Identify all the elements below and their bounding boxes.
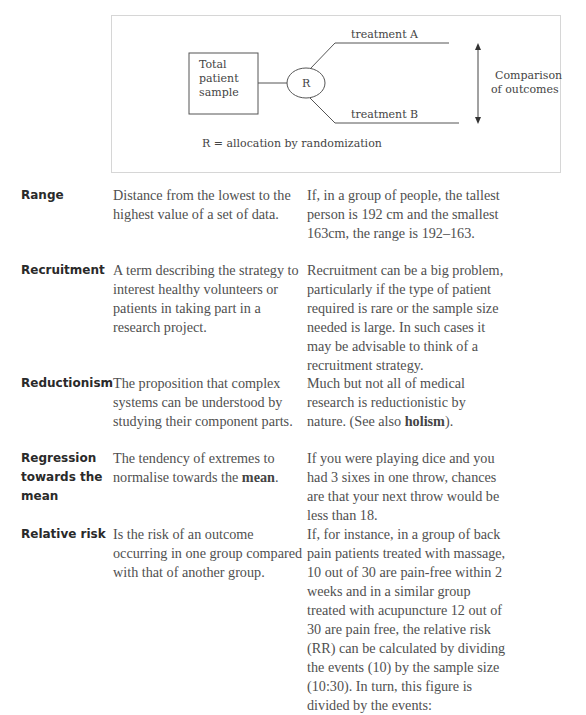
example: If, for instance, in a group of back pai… <box>307 525 507 715</box>
term-text: Relative risk <box>21 527 106 541</box>
term-text: Recruitment <box>21 263 105 277</box>
definition: Distance from the lowest to the highest … <box>113 186 303 224</box>
example: If, in a group of people, the tallest pe… <box>307 186 507 243</box>
term-text: Range <box>21 188 64 202</box>
definition-text-end: . <box>275 469 279 485</box>
cross-reference-mean[interactable]: mean <box>242 469 275 485</box>
figure-caption: R = allocation by randomization <box>202 137 382 150</box>
term: Recruitment <box>21 261 109 280</box>
branch-a-line <box>310 43 449 69</box>
term: Relative risk <box>21 525 109 544</box>
node-label: R <box>302 77 311 90</box>
example: Recruitment can be a big problem, partic… <box>307 261 507 375</box>
definition: A term describing the strategy to intere… <box>113 261 303 337</box>
box-label-line-1: Total <box>199 58 227 71</box>
cross-reference-holism[interactable]: holism <box>405 413 445 429</box>
example: Much but not all of medical research is … <box>307 374 507 431</box>
diagram-canvas: Total patient sample R treatment A treat… <box>1 1 586 201</box>
definition: The proposition that complex systems can… <box>113 374 303 431</box>
outcome-label-line-2: of outcomes <box>491 83 559 96</box>
randomization-diagram: Total patient sample R treatment A treat… <box>111 15 561 173</box>
branch-a-label: treatment A <box>351 28 419 41</box>
double-arrow-icon <box>475 43 481 124</box>
example-text-end: ). <box>445 413 453 429</box>
branch-b-label: treatment B <box>351 108 418 121</box>
term-line-2: towards the <box>21 468 109 487</box>
example: If you were playing dice and you had 3 s… <box>307 449 507 525</box>
term-line-1: Regression <box>21 449 109 468</box>
outcome-label-line-1: Comparison <box>495 69 562 82</box>
box-label-line-2: patient <box>199 72 239 85</box>
term-text: Reductionism <box>21 376 113 390</box>
term: Regression towards the mean <box>21 449 109 506</box>
box-label-line-3: sample <box>199 86 239 99</box>
definition: Is the risk of an outcome occurring in o… <box>113 525 303 582</box>
term: Range <box>21 186 109 205</box>
term: Reductionism <box>21 374 109 393</box>
term-line-3: mean <box>21 487 109 506</box>
definition: The tendency of extremes to normalise to… <box>113 449 303 487</box>
